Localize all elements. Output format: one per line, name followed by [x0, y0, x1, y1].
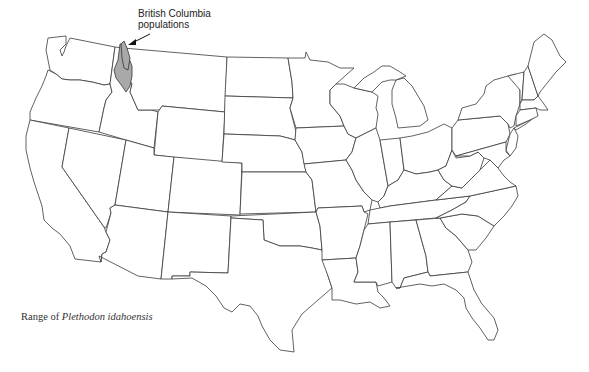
state-new-mexico: [161, 212, 231, 279]
state-north-dakota: [225, 57, 293, 98]
state-florida: [396, 272, 498, 340]
state-wyoming: [154, 106, 225, 163]
annotation-label: British Columbia populations: [138, 8, 211, 30]
state-michigan: [392, 78, 428, 128]
arrowhead-icon: [128, 39, 136, 45]
map-caption: Range of Plethodon idahoensis: [21, 311, 153, 322]
annotation-line-1: British Columbia: [138, 8, 211, 19]
state-montana: [122, 48, 227, 112]
caption-prefix: Range of: [21, 311, 62, 322]
state-kansas: [240, 172, 316, 214]
caption-species-name: Plethodon idahoensis: [62, 311, 153, 322]
annotation-line-2: populations: [138, 19, 211, 30]
state-colorado: [168, 157, 242, 215]
state-south-dakota: [224, 96, 296, 140]
